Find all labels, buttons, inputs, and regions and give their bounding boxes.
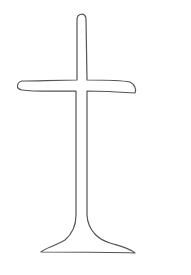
cross-outline-shape (17, 14, 135, 253)
drawing-canvas (0, 0, 191, 275)
